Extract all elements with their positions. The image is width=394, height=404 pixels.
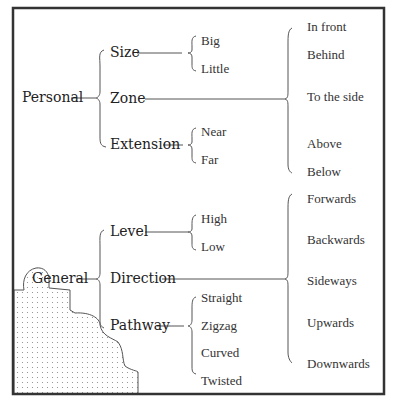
- node-extension: Extension: [110, 137, 180, 151]
- node-pathway: Pathway: [110, 318, 170, 332]
- node-low: Low: [201, 240, 225, 253]
- node-big: Big: [201, 34, 220, 47]
- node-straight: Straight: [201, 291, 242, 304]
- space-diagram: Personal General Size Zone Extension Lev…: [0, 0, 394, 404]
- node-direction: Direction: [110, 271, 176, 285]
- node-below: Below: [307, 165, 341, 178]
- node-general: General: [32, 271, 88, 285]
- personal-brace: [96, 50, 106, 147]
- node-behind: Behind: [307, 48, 345, 61]
- node-zigzag: Zigzag: [201, 319, 237, 332]
- node-high: High: [201, 212, 227, 225]
- node-above: Above: [307, 137, 342, 150]
- node-little: Little: [201, 62, 229, 75]
- direction-brace: [285, 194, 292, 363]
- general-brace: [96, 230, 104, 328]
- node-downwards: Downwards: [307, 357, 370, 370]
- node-to-the-side: To the side: [307, 90, 364, 103]
- node-curved: Curved: [201, 346, 239, 359]
- node-sideways: Sideways: [307, 274, 357, 287]
- node-level: Level: [110, 224, 148, 238]
- node-twisted: Twisted: [201, 374, 242, 387]
- zone-brace: [285, 28, 292, 173]
- node-personal: Personal: [22, 90, 83, 104]
- node-size: Size: [110, 45, 140, 59]
- node-in-front: In front: [307, 20, 346, 33]
- node-forwards: Forwards: [307, 192, 356, 205]
- node-near: Near: [201, 125, 226, 138]
- node-far: Far: [201, 153, 218, 166]
- node-backwards: Backwards: [307, 233, 365, 246]
- node-upwards: Upwards: [307, 316, 354, 329]
- node-zone: Zone: [110, 91, 145, 105]
